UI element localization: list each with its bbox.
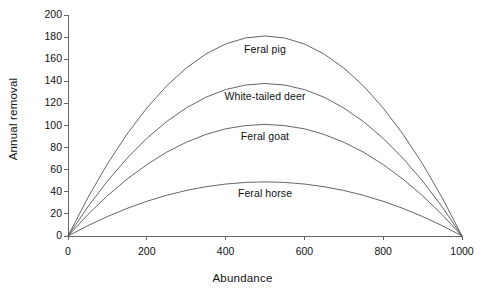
series-label-0: Feral pig [185, 43, 345, 55]
y-axis-tick-label: 0 [28, 229, 62, 241]
y-axis-tick-label: 20 [28, 207, 62, 219]
y-axis-tick-label: 180 [28, 30, 62, 42]
x-axis-tick-label: 1000 [439, 245, 485, 257]
x-axis-tick-label: 600 [281, 245, 327, 257]
y-axis-tick-label: 80 [28, 141, 62, 153]
y-axis-tick-label: 60 [28, 163, 62, 175]
x-axis-label: Abundance [0, 272, 485, 284]
y-axis-label-wrapper: Annual removal [2, 0, 24, 238]
y-axis-tick-label: 160 [28, 52, 62, 64]
y-axis-tick-label: 100 [28, 119, 62, 131]
y-axis-tick-label: 40 [28, 185, 62, 197]
x-axis-tick-label: 0 [45, 245, 91, 257]
x-axis-tick-label: 400 [203, 245, 249, 257]
series-label-3: Feral horse [185, 187, 345, 199]
y-axis-tick-label: 200 [28, 8, 62, 20]
y-axis-label: Annual removal [7, 78, 19, 161]
y-axis-tick-label: 120 [28, 96, 62, 108]
series-label-2: Feral goat [185, 130, 345, 142]
curve-series-1 [68, 84, 462, 236]
x-axis-tick-label: 200 [124, 245, 170, 257]
y-axis-tick-label: 140 [28, 74, 62, 86]
chart-figure: Annual removal Abundance 200180160140120… [0, 0, 485, 298]
series-label-1: White-tailed deer [185, 90, 345, 102]
x-axis-tick-label: 800 [360, 245, 406, 257]
